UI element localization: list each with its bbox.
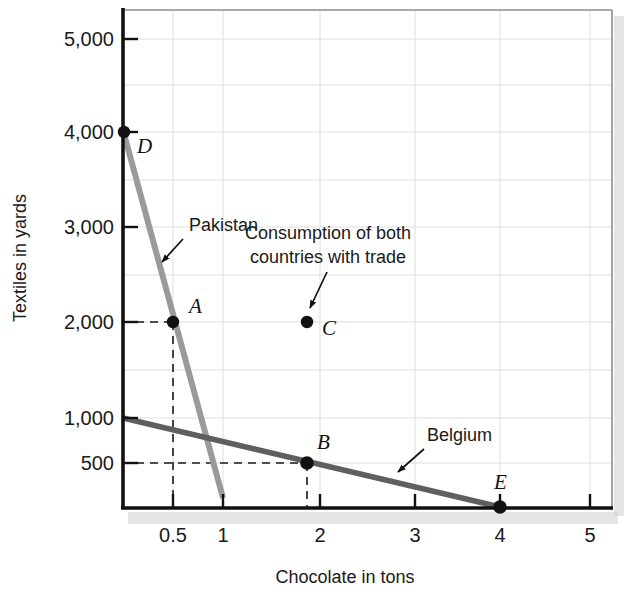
data-point-c — [301, 316, 313, 328]
data-point-label-d: D — [136, 134, 152, 158]
y-tick-label-3000: 3,000 — [64, 216, 114, 238]
consumption-note-line2: countries with trade — [250, 247, 406, 267]
y-tick-label-4000: 4,000 — [64, 121, 114, 143]
chart-svg: 5,000 4,000 3,000 2,000 1,000 500 0.5 1 … — [0, 0, 631, 597]
y-tick-label-2000: 2,000 — [64, 311, 114, 333]
x-tick-label-4: 4 — [494, 524, 505, 546]
x-axis-title: Chocolate in tons — [275, 567, 414, 587]
data-point-a — [167, 316, 179, 328]
data-point-b — [300, 456, 314, 470]
x-tick-label-5: 5 — [584, 524, 595, 546]
data-point-label-c: C — [322, 316, 337, 340]
y-tick-label-500: 500 — [81, 452, 114, 474]
data-point-d — [118, 126, 130, 138]
series-label-belgium: Belgium — [427, 425, 492, 445]
data-point-label-b: B — [317, 430, 330, 454]
x-tick-label-0-5: 0.5 — [159, 524, 187, 546]
x-tick-label-3: 3 — [409, 524, 420, 546]
data-point-label-a: A — [187, 294, 202, 318]
consumption-note-line1: Consumption of both — [245, 223, 411, 243]
data-point-e — [493, 500, 507, 514]
y-tick-label-5000: 5,000 — [64, 28, 114, 50]
chart-figure: 5,000 4,000 3,000 2,000 1,000 500 0.5 1 … — [0, 0, 631, 597]
x-tick-label-2: 2 — [314, 524, 325, 546]
x-tick-label-1: 1 — [217, 524, 228, 546]
y-tick-label-1000: 1,000 — [64, 407, 114, 429]
y-axis-title: Textiles in yards — [10, 194, 30, 322]
data-point-label-e: E — [493, 470, 507, 494]
